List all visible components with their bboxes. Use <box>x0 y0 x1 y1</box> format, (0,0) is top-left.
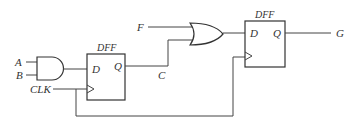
label-f: F <box>136 21 144 33</box>
dff2-d-label: D <box>249 27 258 39</box>
dff1-q-label: Q <box>114 60 122 72</box>
label-g: G <box>336 27 344 39</box>
label-a: A <box>14 56 22 68</box>
label-c: C <box>158 69 166 81</box>
and-gate <box>37 57 64 80</box>
dff2-title: DFF <box>254 9 275 20</box>
dff2-q-label: Q <box>273 27 281 39</box>
or-gate <box>190 23 223 45</box>
wire-c <box>125 40 196 66</box>
circuit-diagram: A B CLK F C G DFF D Q DFF D Q <box>0 0 360 123</box>
dff1-title: DFF <box>96 42 117 53</box>
label-clk: CLK <box>30 83 51 95</box>
label-b: B <box>16 69 23 81</box>
dff1-d-label: D <box>91 63 100 75</box>
